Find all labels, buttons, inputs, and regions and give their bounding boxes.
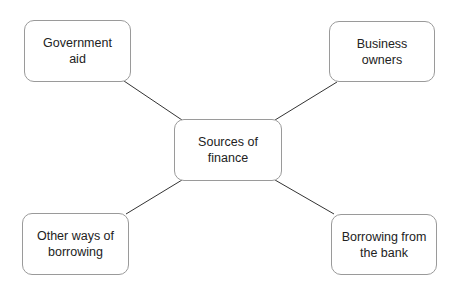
node-label-line1: Business [357,37,408,51]
node-borrowing-from-the-bank: Borrowing fromthe bank [331,214,437,275]
node-label-line1: Borrowing from [342,230,427,244]
edge-borrowing-from-the-bank [275,180,334,214]
node-label-line1: Other ways of [37,229,114,243]
node-government-aid: Governmentaid [24,20,131,82]
node-sources-of-finance: Sources offinance [174,119,282,181]
node-label-line2: owners [362,53,402,67]
node-label-line2: the bank [360,246,408,260]
node-label-line2: aid [69,52,86,66]
node-label-line1: Government [43,36,112,50]
edge-government-aid [124,81,182,120]
node-label-line2: finance [208,151,248,165]
node-business-owners: Businessowners [329,21,435,82]
node-label-line2: borrowing [48,245,103,259]
node-other-ways-of-borrowing: Other ways ofborrowing [22,213,129,275]
edge-business-owners [275,82,337,120]
node-label-line1: Sources of [198,135,258,149]
edge-other-ways-of-borrowing [126,180,182,214]
